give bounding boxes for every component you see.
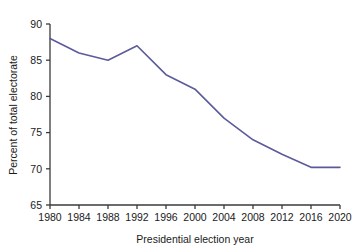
x-tick-label-1980: 1980 bbox=[38, 211, 62, 223]
y-tick-label-75: 75 bbox=[30, 126, 42, 138]
line-chart: 657075808590 198019841988199219962000200… bbox=[0, 0, 359, 252]
x-tick-label-2004: 2004 bbox=[212, 211, 236, 223]
y-tick-label-90: 90 bbox=[30, 18, 42, 30]
y-tick-label-85: 85 bbox=[30, 54, 42, 66]
x-tick-label-1996: 1996 bbox=[154, 211, 178, 223]
y-tick-label-80: 80 bbox=[30, 90, 42, 102]
y-axis-title: Percent of total electorate bbox=[7, 55, 19, 175]
x-tick-label-2016: 2016 bbox=[299, 211, 323, 223]
x-axis-title: Presidential election year bbox=[136, 233, 254, 245]
x-tick-label-2012: 2012 bbox=[270, 211, 294, 223]
turnout-line-series bbox=[50, 38, 340, 167]
y-tick-label-70: 70 bbox=[30, 163, 42, 175]
x-tick-label-1992: 1992 bbox=[125, 211, 149, 223]
x-tick-label-2000: 2000 bbox=[183, 211, 207, 223]
y-tick-label-65: 65 bbox=[30, 199, 42, 211]
x-tick-label-1984: 1984 bbox=[67, 211, 91, 223]
y-axis-tick-labels: 657075808590 bbox=[30, 18, 42, 211]
x-tick-label-1988: 1988 bbox=[96, 211, 120, 223]
x-tick-label-2008: 2008 bbox=[241, 211, 265, 223]
x-axis-tick-labels: 1980198419881992199620002004200820122016… bbox=[38, 211, 352, 223]
x-tick-label-2020: 2020 bbox=[328, 211, 352, 223]
chart-figure: 657075808590 198019841988199219962000200… bbox=[0, 0, 359, 252]
